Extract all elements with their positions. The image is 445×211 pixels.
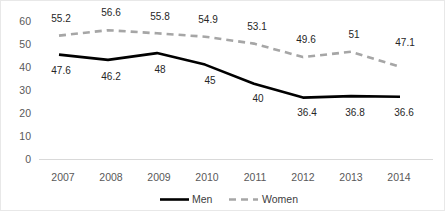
y-tick-label: 0 <box>25 153 31 165</box>
data-label-men: 47.6 <box>51 65 71 76</box>
data-label-women: 53.1 <box>247 21 267 32</box>
legend-label-men[interactable]: Men <box>192 193 213 205</box>
x-tick-label: 2012 <box>291 171 315 183</box>
data-label-women: 49.6 <box>296 34 316 45</box>
data-label-women: 51 <box>348 29 360 40</box>
data-label-men: 48 <box>154 64 166 75</box>
x-tick-label: 2008 <box>99 171 123 183</box>
x-tick-label: 2013 <box>339 171 363 183</box>
data-label-women: 54.9 <box>198 14 218 25</box>
x-tick-label: 2009 <box>147 171 171 183</box>
chart-legend: Men Women <box>160 193 298 205</box>
data-label-men: 45 <box>204 75 216 86</box>
data-label-women: 55.8 <box>150 11 170 22</box>
data-labels-women: 55.2 56.6 55.8 54.9 53.1 49.6 51 47.1 <box>51 7 415 48</box>
x-axis-tick-labels: 2007 2008 2009 2010 2011 2012 2013 2014 <box>51 171 411 183</box>
data-label-men: 40 <box>252 93 264 104</box>
data-labels-men: 47.6 46.2 48 45 40 36.4 36.8 36.6 <box>51 64 414 118</box>
y-axis-tick-labels: 60 50 40 30 20 10 0 <box>19 15 31 165</box>
data-label-women: 56.6 <box>101 7 121 18</box>
data-label-women: 47.1 <box>395 37 415 48</box>
chart-canvas: 60 50 40 30 20 10 0 55.2 56.6 55.8 54.9 … <box>1 1 445 211</box>
y-tick-label: 20 <box>19 107 31 119</box>
x-tick-label: 2014 <box>387 171 411 183</box>
data-label-women: 55.2 <box>51 13 71 24</box>
data-label-men: 36.6 <box>394 107 414 118</box>
x-tick-label: 2007 <box>51 171 75 183</box>
x-tick-label: 2011 <box>244 171 267 183</box>
data-label-men: 36.8 <box>345 107 365 118</box>
data-label-men: 36.4 <box>297 107 317 118</box>
data-label-men: 46.2 <box>101 71 121 82</box>
y-tick-label: 10 <box>19 130 31 142</box>
y-tick-label: 30 <box>19 84 31 96</box>
legend-label-women[interactable]: Women <box>262 193 298 205</box>
line-chart: 60 50 40 30 20 10 0 55.2 56.6 55.8 54.9 … <box>0 0 445 211</box>
y-tick-label: 40 <box>19 61 31 73</box>
x-tick-label: 2010 <box>195 171 219 183</box>
y-tick-label: 50 <box>19 38 31 50</box>
y-tick-label: 60 <box>19 15 31 27</box>
